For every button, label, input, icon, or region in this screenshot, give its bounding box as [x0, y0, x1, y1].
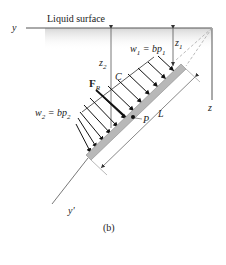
y-prime-axis-line: [52, 158, 88, 204]
resultant-force-arrow: [96, 90, 130, 121]
pressure-center-label: P: [142, 114, 149, 125]
centroid-label: C: [115, 71, 122, 82]
length-extension-top: [186, 69, 200, 82]
length-extension-bottom: [91, 160, 107, 175]
figure-caption: (b): [103, 222, 115, 234]
submerged-plate: [86, 64, 186, 160]
liquid-shading: [45, 28, 212, 50]
w2-label: w2 = bp2: [35, 107, 71, 121]
resultant-force-label: FR: [89, 77, 101, 92]
y-prime-axis-label: y': [67, 205, 75, 216]
distributed-load-arrows: [76, 56, 174, 153]
length-dimension-line: [101, 77, 195, 168]
z2-label: z2: [98, 57, 107, 71]
z-axis-label: z: [207, 102, 212, 113]
hydrostatic-plate-diagram: y Liquid surface z z2 z1 FR C P y': [0, 0, 226, 265]
pressure-center-leader: [135, 118, 142, 119]
y-axis-label: y: [11, 22, 17, 33]
liquid-surface-label: Liquid surface: [47, 13, 106, 24]
length-label: L: [157, 108, 164, 119]
w1-label: w1 = bp1: [130, 43, 165, 57]
center-of-pressure-point: [131, 115, 135, 119]
